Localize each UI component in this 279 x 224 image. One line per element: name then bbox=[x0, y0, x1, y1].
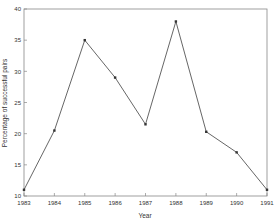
data-point-marker bbox=[84, 39, 86, 41]
line-chart: 10152025303540 1983198419851986198719881… bbox=[0, 0, 279, 224]
data-point-marker bbox=[175, 20, 177, 22]
x-axis-ticks: 198319841985198619871988198919901991 bbox=[17, 193, 274, 206]
y-tick-label: 25 bbox=[14, 100, 21, 106]
data-point-marker bbox=[235, 151, 237, 153]
plot-frame bbox=[24, 9, 267, 196]
data-point-marker bbox=[266, 189, 268, 191]
y-axis-ticks: 10152025303540 bbox=[14, 6, 27, 199]
x-tick-label: 1990 bbox=[230, 200, 244, 206]
y-tick-label: 40 bbox=[14, 6, 21, 12]
y-axis-label: Percentage of successful pairs bbox=[1, 58, 9, 147]
data-point-marker bbox=[205, 131, 207, 133]
y-tick-label: 35 bbox=[14, 37, 21, 43]
x-axis-label: Year bbox=[138, 212, 152, 219]
x-tick-label: 1987 bbox=[139, 200, 153, 206]
x-tick-label: 1989 bbox=[200, 200, 214, 206]
x-tick-label: 1984 bbox=[48, 200, 62, 206]
data-series bbox=[23, 20, 268, 191]
data-point-marker bbox=[144, 123, 146, 125]
y-tick-label: 30 bbox=[14, 69, 21, 75]
x-tick-label: 1985 bbox=[78, 200, 92, 206]
data-point-marker bbox=[114, 76, 116, 78]
x-tick-label: 1983 bbox=[17, 200, 31, 206]
x-tick-label: 1988 bbox=[169, 200, 183, 206]
data-point-marker bbox=[53, 129, 55, 131]
series-line bbox=[24, 21, 267, 189]
x-tick-label: 1986 bbox=[108, 200, 122, 206]
y-tick-label: 15 bbox=[14, 162, 21, 168]
data-point-marker bbox=[23, 189, 25, 191]
y-tick-label: 10 bbox=[14, 193, 21, 199]
y-tick-label: 20 bbox=[14, 131, 21, 137]
x-tick-label: 1991 bbox=[260, 200, 274, 206]
